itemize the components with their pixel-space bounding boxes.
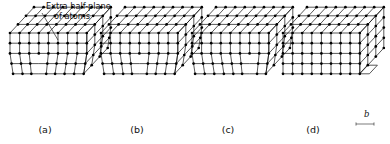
- atom: [213, 72, 216, 75]
- side-depth-line: [360, 28, 384, 54]
- atom: [310, 72, 313, 75]
- atom: [101, 35, 104, 38]
- atom: [320, 52, 323, 55]
- atom: [235, 14, 238, 17]
- atom: [349, 62, 352, 65]
- atom: [255, 14, 258, 17]
- atom: [66, 42, 69, 45]
- atom: [165, 62, 168, 65]
- atom: [92, 14, 95, 17]
- atom: [157, 52, 160, 55]
- atom: [282, 52, 285, 55]
- atom: [184, 43, 187, 46]
- atom: [164, 14, 167, 17]
- atom: [138, 42, 141, 45]
- atom: [218, 23, 221, 26]
- atom: [219, 42, 222, 45]
- atom: [9, 32, 12, 35]
- atom: [366, 64, 369, 67]
- top-depth-line: [350, 7, 374, 33]
- atom: [200, 52, 203, 55]
- atom: [125, 14, 128, 17]
- atom: [184, 33, 187, 36]
- side-depth-line: [87, 7, 111, 33]
- side-depth-line: [360, 7, 384, 33]
- atom: [57, 52, 60, 55]
- top-depth-line: [168, 7, 192, 33]
- atom: [358, 32, 361, 35]
- atom: [366, 23, 369, 26]
- atom: [216, 14, 219, 17]
- atom: [211, 62, 214, 65]
- atom: [45, 23, 48, 26]
- atom: [210, 42, 213, 45]
- atom: [275, 43, 278, 46]
- atom: [358, 42, 361, 45]
- atom: [354, 6, 357, 9]
- atom: [101, 14, 104, 17]
- atom: [128, 42, 131, 45]
- atom: [30, 72, 33, 75]
- side-depth-line: [269, 17, 293, 43]
- atom: [232, 72, 235, 75]
- atom: [146, 23, 149, 26]
- atom: [191, 52, 194, 55]
- atom: [20, 62, 23, 65]
- atom: [18, 32, 21, 35]
- atom: [74, 23, 77, 26]
- atom: [92, 54, 95, 57]
- atom: [73, 72, 76, 75]
- atom: [167, 32, 170, 35]
- panel-d-atoms: [282, 6, 386, 75]
- atom: [12, 72, 15, 75]
- burgers-vector-label: b: [364, 109, 369, 119]
- atom: [266, 62, 269, 65]
- atom: [257, 62, 260, 65]
- atom: [273, 64, 276, 67]
- atom: [301, 42, 304, 45]
- atom: [258, 42, 261, 45]
- atom: [116, 14, 119, 17]
- atom: [229, 42, 232, 45]
- atom: [291, 42, 294, 45]
- atom: [363, 6, 366, 9]
- atom: [307, 14, 310, 17]
- atom: [346, 14, 349, 17]
- atom: [339, 72, 342, 75]
- atom: [65, 62, 68, 65]
- annotation-line-2: of atoms: [54, 11, 90, 21]
- atom: [18, 42, 21, 45]
- atom: [320, 32, 323, 35]
- atom: [339, 32, 342, 35]
- atom: [318, 23, 321, 26]
- atom: [282, 42, 285, 45]
- top-depth-line: [283, 7, 307, 33]
- atom: [74, 62, 77, 65]
- atom: [175, 23, 178, 26]
- atom: [283, 14, 286, 17]
- atom: [229, 52, 232, 55]
- atom: [28, 42, 31, 45]
- atom: [93, 43, 96, 46]
- atom: [128, 52, 131, 55]
- atom: [219, 52, 222, 55]
- panel-d-top-face: [283, 7, 384, 33]
- burgers-vector-arrow: [356, 122, 374, 125]
- atom: [245, 14, 248, 17]
- atom: [176, 52, 179, 55]
- atom: [320, 42, 323, 45]
- atom: [47, 52, 50, 55]
- atom: [154, 72, 157, 75]
- atom: [183, 14, 186, 17]
- atom: [199, 23, 202, 26]
- top-depth-line: [149, 7, 173, 33]
- atom: [119, 52, 122, 55]
- atom: [109, 32, 112, 35]
- top-depth-line: [211, 7, 235, 33]
- atom: [127, 23, 130, 26]
- atom: [253, 6, 256, 9]
- atom: [148, 52, 151, 55]
- atom: [330, 52, 333, 55]
- atom: [301, 62, 304, 65]
- atom: [124, 6, 127, 9]
